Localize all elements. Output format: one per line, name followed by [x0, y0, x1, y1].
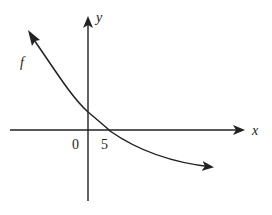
- curve-f: [30, 34, 212, 167]
- x-axis-label: x: [251, 123, 259, 138]
- origin-label: 0: [72, 137, 79, 152]
- curve-left-arrow-icon: [28, 30, 40, 46]
- function-graph: y x f 0 5: [0, 0, 272, 215]
- x-intercept-label: 5: [101, 137, 108, 152]
- curve-label-f: f: [20, 55, 26, 70]
- y-axis-label: y: [94, 10, 103, 25]
